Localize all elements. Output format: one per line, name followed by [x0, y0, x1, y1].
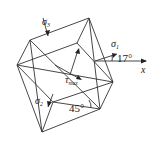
sigma1-label: σ1 [111, 38, 119, 50]
angle-45-label: 45° [69, 102, 84, 114]
sigma3-label: σ3 [42, 16, 50, 28]
tau-max-arrow-2 [70, 50, 78, 75]
x-axis-arrowhead [141, 59, 147, 64]
stress-element-diagram: σ3 σ1 17° x τmax σ2 45° [0, 0, 154, 152]
x-axis-label: x [140, 64, 146, 75]
sigma2-label: σ2 [35, 95, 43, 107]
cube-edge [30, 40, 42, 132]
angle-17-label: 17° [117, 52, 132, 64]
diagonal-plane [53, 82, 113, 102]
tau-arrowhead-2 [75, 48, 80, 54]
angle-arc-45 [89, 100, 91, 108]
